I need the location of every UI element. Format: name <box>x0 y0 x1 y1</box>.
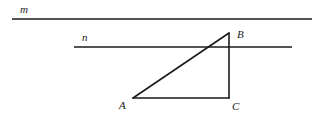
label-line-m: m <box>20 4 28 15</box>
label-vertex-a: A <box>119 100 126 111</box>
label-vertex-c: C <box>232 101 239 112</box>
triangle-side-ab <box>133 33 229 98</box>
label-line-n: n <box>82 32 88 43</box>
geometry-figure: m n B A C <box>0 0 318 122</box>
label-vertex-b: B <box>237 29 244 40</box>
geometry-canvas <box>0 0 318 122</box>
